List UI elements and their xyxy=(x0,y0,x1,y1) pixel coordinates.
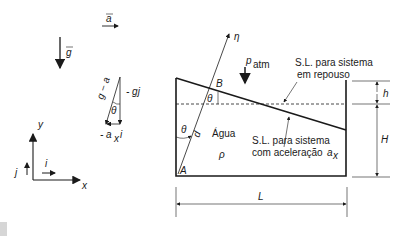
j-unit-label: j xyxy=(13,167,18,178)
h-label: h xyxy=(383,88,389,99)
eta-label: η xyxy=(234,31,240,42)
patm-p-label: p xyxy=(245,55,252,66)
minus-ax-label: - a xyxy=(100,129,112,140)
accel-surface-line2: com aceleração xyxy=(252,147,323,158)
point-b-label: B xyxy=(216,78,223,89)
g-minus-a-label: g − a xyxy=(94,75,112,100)
theta-arc-icon xyxy=(113,102,120,104)
y-axis-label: y xyxy=(37,119,44,130)
tank-walls xyxy=(176,78,346,176)
theta-arc-icon xyxy=(176,136,191,138)
page-corner-mark xyxy=(0,222,7,236)
triangle-theta-label: θ xyxy=(111,105,117,116)
coordinate-axes: y x j i xyxy=(13,119,88,191)
i-unit-label: i xyxy=(45,158,48,169)
accel-surface-line1: S.L. para sistema xyxy=(252,135,330,146)
fluid-label: Água xyxy=(212,127,236,139)
density-label: ρ xyxy=(218,149,225,160)
theta-top-label: θ xyxy=(207,93,213,104)
vector-triangle: θ g − a - gj - a x i xyxy=(94,75,140,144)
x-axis-label: x xyxy=(81,180,88,191)
d-label: d xyxy=(191,129,203,138)
fluid-acceleration-diagram: a g θ g − a - gj - a x i y x j i xyxy=(0,0,405,236)
L-label: L xyxy=(258,191,264,202)
minus-ax-subscript: x xyxy=(113,133,120,144)
minus-ax-i-label: i xyxy=(120,129,123,140)
patm-sub-label: atm xyxy=(253,59,270,70)
theta-bottom-label: θ xyxy=(181,124,187,135)
accel-subscript: x xyxy=(332,150,339,161)
a-vector-label: a xyxy=(106,13,112,24)
rest-surface-line1: S.L. para sistema xyxy=(295,57,373,68)
rest-surface-line2: em repouso xyxy=(297,69,350,80)
point-a-label: A xyxy=(179,165,187,176)
height-dimensions: h H xyxy=(352,81,390,177)
g-vector-label: g xyxy=(66,47,72,58)
H-label: H xyxy=(381,134,389,145)
length-dimension: L xyxy=(176,187,347,217)
atmospheric-pressure: p atm xyxy=(245,55,270,83)
minus-gj-label: - gj xyxy=(126,86,141,97)
rest-surface-annotation: S.L. para sistema em repouso xyxy=(284,57,373,102)
gravity-vector: g xyxy=(60,37,73,68)
acceleration-vector: a xyxy=(102,13,118,26)
